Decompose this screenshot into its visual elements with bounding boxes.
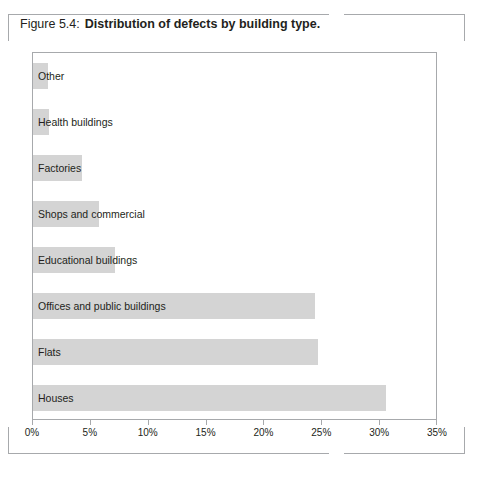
bar-row: Shops and commercial: [33, 191, 438, 237]
bar-row: Educational buildings: [33, 237, 438, 283]
frame-corner-top-right: [344, 14, 465, 41]
bar-category-label: Houses: [38, 385, 74, 411]
x-axis-tick-label: 20%: [253, 427, 273, 438]
bar-category-label: Offices and public buildings: [38, 293, 166, 319]
x-axis-tick: [379, 420, 380, 425]
bar-category-label: Shops and commercial: [38, 201, 145, 227]
bar-row: Factories: [33, 145, 438, 191]
bar-category-label: Health buildings: [38, 109, 113, 135]
x-axis-tick: [90, 420, 91, 425]
bar-row: Health buildings: [33, 99, 438, 145]
x-axis-tick-label: 25%: [311, 427, 331, 438]
x-axis: 0%5%10%15%20%25%30%35%: [32, 420, 437, 450]
x-axis-tick-label: 30%: [369, 427, 389, 438]
figure-number: Figure 5.4:: [20, 17, 80, 31]
bar-category-label: Educational buildings: [38, 247, 137, 273]
bar-row: Other: [33, 53, 438, 99]
bar: [33, 385, 386, 411]
bar-category-label: Factories: [38, 155, 81, 181]
x-axis-tick: [321, 420, 322, 425]
x-axis-tick-label: 15%: [196, 427, 216, 438]
bar-category-label: Other: [38, 63, 64, 89]
chart-plot-area: OtherHealth buildingsFactoriesShops and …: [32, 52, 437, 420]
bar-row: Flats: [33, 329, 438, 375]
x-axis-tick-label: 0%: [25, 427, 39, 438]
x-axis-tick: [436, 420, 437, 425]
x-axis-tick: [148, 420, 149, 425]
figure-title: Distribution of defects by building type…: [85, 17, 320, 31]
x-axis-tick: [263, 420, 264, 425]
x-axis-tick: [32, 420, 33, 425]
bar-row: Houses: [33, 375, 438, 421]
bar-row: Offices and public buildings: [33, 283, 438, 329]
x-axis-tick-label: 10%: [138, 427, 158, 438]
bar: [33, 339, 318, 365]
x-axis-tick-label: 35%: [427, 427, 447, 438]
x-axis-tick-label: 5%: [83, 427, 97, 438]
figure-caption: Figure 5.4:Distribution of defects by bu…: [20, 16, 320, 32]
bar-category-label: Flats: [38, 339, 61, 365]
x-axis-tick: [206, 420, 207, 425]
bar-series: OtherHealth buildingsFactoriesShops and …: [33, 53, 436, 419]
